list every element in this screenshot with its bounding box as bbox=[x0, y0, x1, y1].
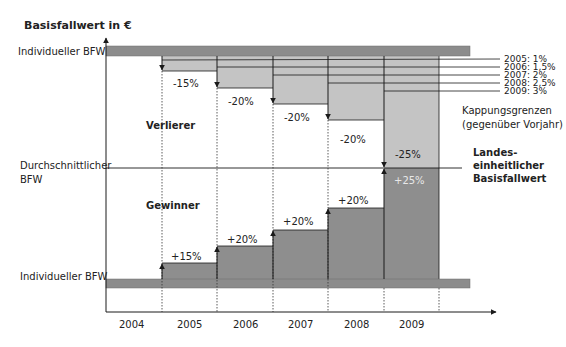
top-individual-bar bbox=[106, 46, 470, 56]
winner-pct-2007: +20% bbox=[283, 216, 314, 227]
loser-box-2005 bbox=[162, 56, 217, 71]
winner-box-2008 bbox=[328, 208, 384, 279]
diagram-canvas: Basisfallwert in € bbox=[0, 0, 566, 347]
x-label-2007: 2007 bbox=[288, 319, 313, 330]
target-label-1: Landes- bbox=[473, 147, 517, 158]
loser-pct-2005: -15% bbox=[173, 78, 199, 89]
winner-box-2006 bbox=[217, 246, 273, 279]
label-individual-top: Individueller BFW bbox=[18, 46, 106, 57]
loser-pct-2008: -20% bbox=[340, 134, 366, 145]
capping-title-2: (gegenüber Vorjahr) bbox=[462, 119, 563, 130]
winner-box-2007 bbox=[273, 230, 328, 279]
winner-pct-2006: +20% bbox=[227, 234, 258, 245]
capping-title-1: Kappungsgrenzen bbox=[462, 105, 552, 116]
loser-pct-2006: -20% bbox=[228, 96, 254, 107]
loser-pct-2007: -20% bbox=[284, 112, 310, 123]
winner-box-2005 bbox=[162, 263, 217, 279]
label-losers: Verlierer bbox=[146, 120, 195, 131]
target-label-3: Basisfallwert bbox=[473, 173, 547, 184]
x-label-2004: 2004 bbox=[119, 319, 144, 330]
loser-box-2007 bbox=[273, 56, 328, 104]
label-average-2: BFW bbox=[20, 174, 43, 185]
label-individual-bottom: Individueller BFW bbox=[20, 271, 108, 282]
x-label-2006: 2006 bbox=[233, 319, 258, 330]
x-label-2009: 2009 bbox=[399, 319, 424, 330]
target-label-2: einheitlicher bbox=[473, 160, 544, 171]
x-label-2008: 2008 bbox=[344, 319, 369, 330]
loser-box-2006 bbox=[217, 56, 273, 88]
cap-2009: 2009: 3% bbox=[504, 86, 548, 96]
winner-pct-2008: +20% bbox=[338, 195, 369, 206]
bottom-individual-bar bbox=[106, 279, 470, 288]
winner-pct-2005: +15% bbox=[171, 251, 202, 262]
loser-pct-2009: -25% bbox=[395, 149, 421, 160]
label-average-1: Durchschnittlicher bbox=[20, 160, 112, 171]
x-label-2005: 2005 bbox=[177, 319, 202, 330]
label-winners: Gewinner bbox=[146, 200, 200, 211]
winner-pct-2009: +25% bbox=[394, 175, 425, 186]
loser-box-2008 bbox=[328, 56, 384, 120]
y-axis-title: Basisfallwert in € bbox=[24, 19, 132, 32]
